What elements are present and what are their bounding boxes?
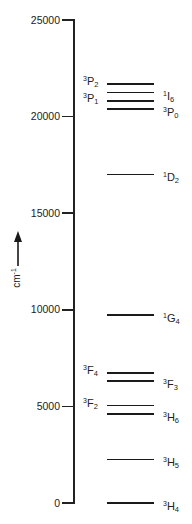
y-tick-mark	[62, 116, 74, 118]
y-axis-unit-label: cm-1	[11, 264, 25, 292]
y-tick-mark	[62, 502, 74, 504]
y-tick-mark	[62, 212, 74, 214]
y-tick-label: 0	[2, 497, 60, 509]
level-line-3H5	[107, 459, 154, 461]
level-label-3P2: 3P2	[83, 75, 98, 87]
level-line-1I6	[107, 92, 154, 94]
level-label-3F4: 3F4	[83, 364, 98, 376]
level-line-1D2	[107, 174, 154, 176]
level-label-3F3: 3F3	[163, 378, 178, 390]
level-label-3F2: 3F2	[83, 397, 98, 409]
y-tick-label: 5000	[2, 400, 60, 412]
level-label-1D2: 1D2	[163, 171, 179, 183]
level-label-3P0: 3P0	[163, 106, 178, 118]
level-line-3P1	[107, 100, 154, 102]
level-line-3H6	[107, 413, 154, 415]
level-label-1I6: 1I6	[163, 90, 174, 102]
y-tick-label: 10000	[2, 303, 60, 315]
y-tick-label: 15000	[2, 207, 60, 219]
level-label-3P1: 3P1	[83, 92, 98, 104]
y-tick-mark	[62, 309, 74, 311]
level-label-3H5: 3H5	[163, 456, 179, 468]
y-tick-mark	[62, 406, 74, 408]
energy-level-diagram: 2500020000150001000050000 3P21I63P13P01D…	[0, 0, 192, 524]
y-tick-label: 25000	[2, 14, 60, 26]
level-line-3F2	[107, 405, 154, 407]
y-axis-line	[73, 19, 75, 504]
level-line-3F3	[107, 380, 154, 382]
level-line-3P2	[107, 83, 154, 85]
level-label-3H4: 3H4	[163, 500, 179, 512]
up-arrow-icon	[13, 230, 23, 266]
y-tick-label: 20000	[2, 110, 60, 122]
level-line-3H4	[107, 502, 154, 504]
level-line-3F4	[107, 372, 154, 374]
level-label-1G4: 1G4	[163, 312, 180, 324]
y-tick-mark	[62, 19, 74, 21]
level-line-3P0	[107, 108, 154, 110]
level-line-1G4	[107, 314, 154, 316]
level-label-3H6: 3H6	[163, 411, 179, 423]
